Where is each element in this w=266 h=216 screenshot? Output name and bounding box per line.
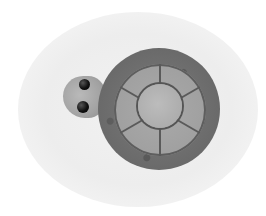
turtle-shell-center — [138, 84, 182, 128]
turtle-eye-top — [79, 79, 90, 90]
turtle-eye-bottom — [77, 101, 89, 113]
